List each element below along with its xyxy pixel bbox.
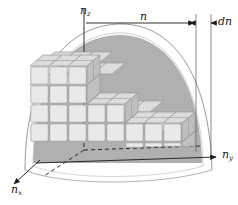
label-dn: dn — [218, 16, 232, 27]
label-n-z: nz — [80, 5, 91, 18]
diagram-canvas — [0, 0, 238, 205]
cube-left-shadow — [30, 74, 43, 142]
label-n-y: ny — [222, 149, 233, 162]
label-n-x: nx — [11, 184, 22, 197]
nx-axis — [14, 160, 40, 184]
label-n: n — [140, 11, 147, 22]
n-space-diagram: nz n dn ny nx — [0, 0, 238, 205]
